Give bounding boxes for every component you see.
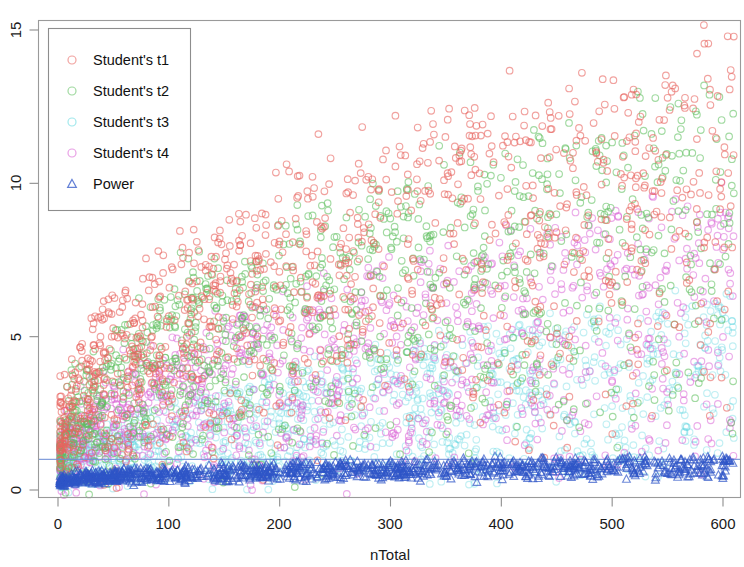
legend-label-t2: Student's t2 [93,83,169,99]
legend-label-t3: Student's t3 [93,114,169,130]
x-tick-label-0: 0 [54,515,62,532]
x-axis-title: nTotal [370,546,410,563]
y-axis-ticks [30,30,39,490]
legend-label-power: Power [93,176,134,192]
legend-label-t4: Student's t4 [93,145,169,161]
x-tick-label-500: 500 [599,515,624,532]
y-tick-label-10: 10 [7,175,24,192]
x-tick-label-400: 400 [488,515,513,532]
x-tick-label-200: 200 [266,515,291,532]
legend: Student's t1 Student's t2 Student's t3 S… [49,29,191,211]
scatter-plot-figure: 0 100 200 300 400 500 600 0 5 10 15 nTot… [0,0,744,567]
y-tick-label-0: 0 [7,486,24,494]
x-axis-ticks [58,498,723,507]
x-tick-label-600: 600 [710,515,735,532]
x-tick-label-300: 300 [377,515,402,532]
plot-canvas: 0 100 200 300 400 500 600 0 5 10 15 nTot… [0,0,744,567]
legend-label-t1: Student's t1 [93,52,169,68]
x-tick-label-100: 100 [155,515,180,532]
y-tick-label-5: 5 [7,333,24,341]
y-tick-label-15: 15 [7,22,24,39]
